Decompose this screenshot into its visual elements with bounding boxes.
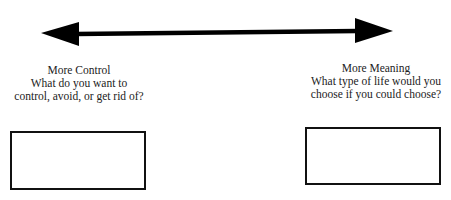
right-answer-box[interactable] [305,127,441,185]
right-arrowhead-icon [355,18,393,43]
left-title: More Control [8,64,150,77]
right-question-line1: What type of life would you [304,75,448,88]
right-prompt: More Meaning What type of life would you… [304,62,448,101]
right-question-line2: choose if you could choose? [304,88,448,101]
left-prompt: More Control What do you want to control… [8,64,150,103]
arrow-shaft [76,31,358,34]
right-title: More Meaning [304,62,448,75]
left-answer-box[interactable] [10,131,146,190]
left-question-line2: control, avoid, or get rid of? [8,90,150,103]
left-arrowhead-icon [41,22,79,46]
left-question-line1: What do you want to [8,77,150,90]
